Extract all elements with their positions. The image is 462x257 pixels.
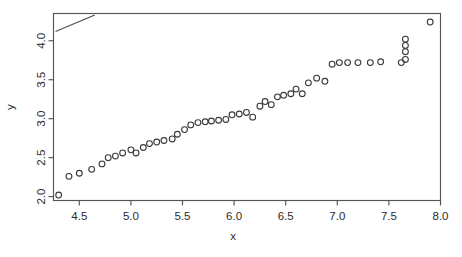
- data-point: [89, 166, 95, 172]
- data-point: [147, 141, 153, 147]
- x-tick-label: 5.5: [175, 210, 191, 222]
- y-axis-tick-labels: 2.02.53.03.54.0: [35, 33, 47, 205]
- plot-frame: [54, 14, 441, 201]
- data-point: [161, 138, 167, 144]
- data-point: [188, 122, 194, 128]
- data-point: [182, 127, 188, 133]
- data-point: [345, 60, 351, 66]
- data-point: [403, 57, 409, 63]
- data-point: [99, 161, 105, 167]
- data-point: [403, 49, 409, 55]
- data-point: [105, 155, 111, 161]
- scatter-plot-screenshot: 4.55.05.56.06.57.07.58.0 2.02.53.03.54.0…: [0, 0, 462, 257]
- data-point: [314, 75, 320, 81]
- data-point-group: [56, 19, 433, 198]
- data-point: [355, 60, 361, 66]
- y-tick-label: 3.0: [35, 111, 47, 127]
- x-tick-label: 8.0: [433, 210, 449, 222]
- x-axis-tick-labels: 4.55.05.56.06.57.07.58.0: [71, 210, 448, 222]
- y-tick-label: 3.5: [35, 72, 47, 88]
- data-point: [229, 112, 235, 118]
- data-point: [281, 92, 287, 98]
- data-point: [223, 117, 229, 123]
- data-point: [378, 59, 384, 65]
- data-point: [275, 94, 281, 100]
- data-point: [236, 111, 242, 117]
- y-tick-label: 2.5: [35, 150, 47, 166]
- data-point: [154, 139, 160, 145]
- data-point: [216, 117, 222, 123]
- x-tick-label: 6.5: [278, 210, 294, 222]
- data-point: [299, 91, 305, 97]
- y-axis-title: y: [4, 104, 16, 110]
- data-point: [209, 118, 215, 124]
- scatter-plot-figure: 4.55.05.56.06.57.07.58.0 2.02.53.03.54.0…: [0, 0, 462, 257]
- x-tick-label: 6.0: [226, 210, 242, 222]
- data-point: [113, 153, 119, 159]
- data-point: [293, 86, 299, 92]
- data-point: [244, 110, 250, 116]
- data-point: [367, 60, 373, 66]
- data-point: [140, 145, 146, 151]
- x-axis-title: x: [230, 230, 236, 242]
- data-point: [403, 36, 409, 42]
- data-point: [250, 114, 256, 120]
- y-tick-label: 4.0: [35, 33, 47, 49]
- x-tick-label: 5.0: [123, 210, 139, 222]
- y-tick-label: 2.0: [35, 189, 47, 205]
- data-point: [427, 19, 433, 25]
- data-point: [336, 60, 342, 66]
- data-point: [329, 61, 335, 67]
- reference-line-group: [56, 15, 95, 31]
- data-point: [202, 119, 208, 125]
- data-point: [120, 150, 126, 156]
- data-point: [262, 99, 268, 105]
- y-axis-ticks: [49, 41, 54, 197]
- data-point: [195, 120, 201, 126]
- data-point: [306, 80, 312, 86]
- x-axis-ticks: [79, 201, 440, 206]
- data-point: [174, 131, 180, 137]
- data-point: [133, 150, 139, 156]
- data-point: [403, 43, 409, 49]
- data-point: [56, 192, 62, 198]
- data-point: [257, 103, 263, 109]
- data-point: [268, 102, 274, 108]
- x-tick-label: 4.5: [71, 210, 87, 222]
- data-point: [288, 91, 294, 97]
- data-point: [76, 170, 82, 176]
- reference-line: [56, 15, 95, 31]
- data-point: [66, 173, 72, 179]
- data-point: [322, 78, 328, 84]
- x-tick-label: 7.0: [329, 210, 345, 222]
- x-tick-label: 7.5: [381, 210, 397, 222]
- data-point: [169, 136, 175, 142]
